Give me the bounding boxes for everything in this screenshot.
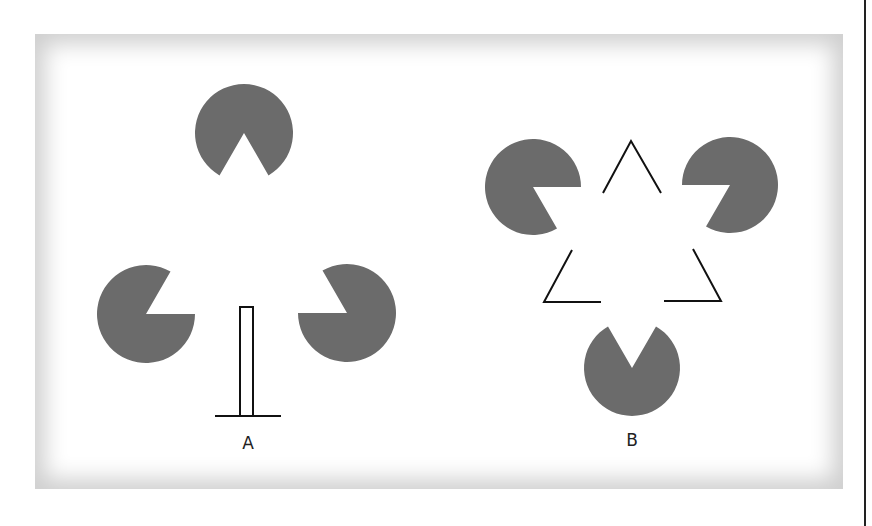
kanizsa-diagram: A B (0, 0, 872, 526)
panel-label-a: A (242, 433, 254, 453)
panel-b: B (485, 137, 778, 450)
inducer-right (298, 264, 396, 362)
panel-label-b: B (626, 430, 638, 450)
inducer-b-left (485, 139, 581, 235)
inducer-b-right (682, 137, 778, 233)
corner-top (603, 141, 661, 193)
post-rect (240, 307, 253, 416)
inducer-top (195, 84, 293, 175)
corner-bottom-right (664, 249, 721, 301)
inducer-b-bottom (584, 326, 680, 416)
corner-bottom-left (544, 250, 601, 302)
inducer-left (97, 265, 195, 363)
panel-a: A (97, 84, 396, 453)
